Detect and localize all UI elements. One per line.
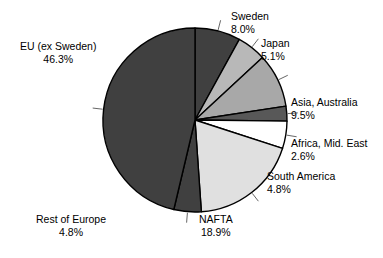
slice-label-sweden-value: 8.0% <box>231 23 269 36</box>
slice-label-asia-australia-value: 9.5% <box>291 109 358 122</box>
slice-label-africa-mid-east-name: Africa, Mid. East <box>291 137 367 150</box>
slice-label-asia-australia: Asia, Australia 9.5% <box>291 96 358 121</box>
pie-chart-page: Sweden 8.0% Japan 5.1% Asia, Australia 9… <box>0 0 383 258</box>
slice-label-japan-name: Japan <box>261 37 290 50</box>
slice-label-sweden-name: Sweden <box>231 10 269 23</box>
leader-line-rest-of-europe <box>187 213 188 223</box>
slice-label-nafta-value: 18.9% <box>199 226 233 239</box>
slice-label-rest-of-europe: Rest of Europe 4.8% <box>36 213 106 238</box>
slice-label-south-america-name: South America <box>267 170 335 183</box>
slice-label-eu-ex-sweden: EU (ex Sweden) 46.3% <box>20 40 96 65</box>
slice-label-nafta: NAFTA 18.9% <box>199 213 233 238</box>
leader-line-eu-ex-sweden <box>93 108 103 109</box>
slice-label-south-america-value: 4.8% <box>267 183 335 196</box>
leader-line-nafta <box>252 193 258 201</box>
slice-label-rest-of-europe-value: 4.8% <box>36 226 106 239</box>
slice-label-japan-value: 5.1% <box>261 50 290 63</box>
leader-line-asia-australia <box>279 75 288 79</box>
slice-label-eu-ex-sweden-name: EU (ex Sweden) <box>20 40 96 53</box>
leader-line-japan <box>252 39 258 47</box>
slice-label-africa-mid-east-value: 2.6% <box>291 150 367 163</box>
slice-label-africa-mid-east: Africa, Mid. East 2.6% <box>291 137 367 162</box>
slice-label-japan: Japan 5.1% <box>261 37 290 62</box>
slice-label-asia-australia-name: Asia, Australia <box>291 96 358 109</box>
slice-label-nafta-name: NAFTA <box>199 213 233 226</box>
slice-label-rest-of-europe-name: Rest of Europe <box>36 213 106 226</box>
slice-label-sweden: Sweden 8.0% <box>231 10 269 35</box>
slice-label-eu-ex-sweden-value: 46.3% <box>20 53 96 66</box>
leader-line-sweden <box>218 20 220 30</box>
pie-slices-group <box>103 28 287 212</box>
slice-label-south-america: South America 4.8% <box>267 170 335 195</box>
